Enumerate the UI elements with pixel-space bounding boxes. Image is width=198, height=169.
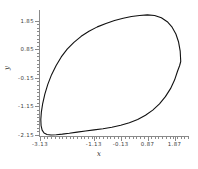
trajectory-curve xyxy=(40,12,188,135)
x-tick-minor xyxy=(144,136,145,139)
x-tick-minor xyxy=(173,136,174,139)
x-tick-minor xyxy=(99,136,100,139)
x-tick-minor xyxy=(88,136,89,139)
x-tick-minor xyxy=(166,136,167,139)
x-tick-minor xyxy=(55,136,56,139)
x-tick-minor xyxy=(62,136,63,139)
x-tick-minor xyxy=(70,136,71,139)
x-tick-minor xyxy=(107,136,108,139)
x-tick-label: -1.13 xyxy=(86,141,102,147)
x-tick-minor xyxy=(158,136,159,139)
x-tick-minor xyxy=(84,136,85,139)
x-tick-minor xyxy=(133,136,134,139)
x-tick-minor xyxy=(114,136,115,139)
x-tick-minor xyxy=(136,136,137,139)
x-tick-minor xyxy=(66,136,67,139)
x-tick-minor xyxy=(96,136,97,139)
x-tick-minor xyxy=(125,136,126,139)
x-tick-minor xyxy=(151,136,152,139)
x-tick-minor xyxy=(188,136,189,139)
y-tick-label: -0.15 xyxy=(18,75,34,81)
y-tick-label: 0.85 xyxy=(20,46,34,52)
y-axis-title: y xyxy=(3,66,11,70)
x-tick-minor xyxy=(103,136,104,139)
x-tick-label: 1.87 xyxy=(168,141,182,147)
y-tick-label: -2.15 xyxy=(18,132,34,138)
x-tick-minor xyxy=(184,136,185,139)
x-tick-minor xyxy=(110,136,111,139)
x-tick-minor xyxy=(162,136,163,139)
x-tick-minor xyxy=(170,136,171,139)
x-tick-minor xyxy=(47,136,48,139)
x-tick-minor xyxy=(81,136,82,139)
x-tick-minor xyxy=(181,136,182,139)
phase-plane-figure: 1.850.85-0.15-1.15-2.15-3.13-1.13-0.130.… xyxy=(0,0,198,169)
x-tick-minor xyxy=(177,136,178,139)
x-tick-minor xyxy=(118,136,119,139)
x-axis-title: x xyxy=(0,150,198,158)
y-tick-label: -1.15 xyxy=(18,103,34,109)
y-tick-label: 1.85 xyxy=(20,18,34,24)
x-tick-minor xyxy=(155,136,156,139)
x-tick-minor xyxy=(77,136,78,139)
x-tick-minor xyxy=(73,136,74,139)
x-tick-minor xyxy=(51,136,52,139)
x-tick-minor xyxy=(92,136,93,139)
plot-area xyxy=(40,12,188,135)
x-tick-minor xyxy=(129,136,130,139)
x-tick-minor xyxy=(44,136,45,139)
x-tick-minor xyxy=(140,136,141,139)
x-tick-label: -3.13 xyxy=(32,141,48,147)
x-tick-label: -0.13 xyxy=(113,141,129,147)
x-tick-label: 0.87 xyxy=(141,141,155,147)
x-tick-minor xyxy=(59,136,60,139)
